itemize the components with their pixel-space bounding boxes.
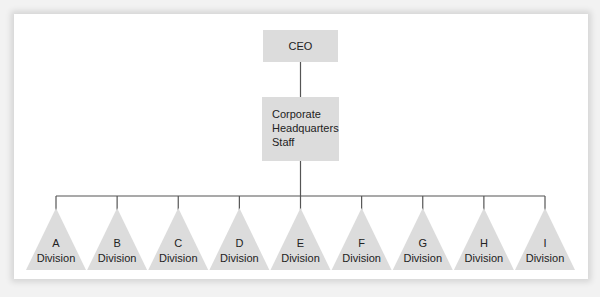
division-node-a: ADivision bbox=[26, 208, 86, 270]
corporate-headquarters-staff-node: Corporate Headquarters Staff bbox=[262, 97, 339, 161]
staff-label-line-2: Headquarters bbox=[272, 122, 339, 134]
division-label: Division bbox=[403, 252, 442, 264]
division-node-d: DDivision bbox=[209, 208, 269, 270]
division-node-f: FDivision bbox=[332, 208, 392, 270]
division-letter: A bbox=[52, 237, 60, 249]
division-letter: G bbox=[418, 237, 427, 249]
division-letter: H bbox=[480, 237, 488, 249]
division-node-h: HDivision bbox=[454, 208, 514, 270]
division-letter: D bbox=[235, 237, 243, 249]
division-label: Division bbox=[37, 252, 76, 264]
division-letter: C bbox=[174, 237, 182, 249]
staff-label-line-1: Corporate bbox=[272, 108, 321, 120]
division-label: Division bbox=[220, 252, 259, 264]
division-label: Division bbox=[526, 252, 565, 264]
division-node-e: EDivision bbox=[271, 208, 331, 270]
division-label: Division bbox=[159, 252, 198, 264]
division-label: Division bbox=[281, 252, 320, 264]
division-node-i: IDivision bbox=[515, 208, 575, 270]
division-node-c: CDivision bbox=[148, 208, 208, 270]
division-letter: I bbox=[543, 237, 546, 249]
org-chart: CEO Corporate Headquarters Staff ADivisi… bbox=[0, 0, 600, 297]
division-node-g: GDivision bbox=[393, 208, 453, 270]
staff-label-line-3: Staff bbox=[272, 136, 295, 148]
division-letter: F bbox=[358, 237, 365, 249]
division-label: Division bbox=[342, 252, 381, 264]
division-label: Division bbox=[98, 252, 137, 264]
division-label: Division bbox=[465, 252, 504, 264]
ceo-label: CEO bbox=[289, 40, 313, 52]
division-letter: E bbox=[297, 237, 304, 249]
ceo-node: CEO bbox=[263, 30, 338, 62]
division-letter: B bbox=[113, 237, 120, 249]
division-node-b: BDivision bbox=[87, 208, 147, 270]
